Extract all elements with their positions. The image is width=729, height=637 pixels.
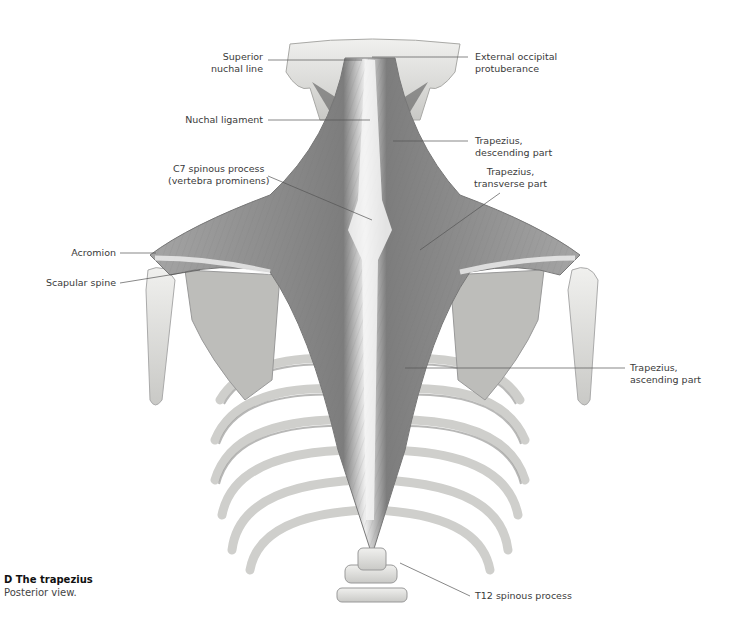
- label-trapezius-transverse-part: Trapezius, transverse part: [474, 166, 547, 190]
- humerus-left: [146, 268, 175, 405]
- label-scapular-spine: Scapular spine: [46, 277, 116, 289]
- caption-title: D The trapezius: [4, 573, 93, 586]
- label-superior-nuchal-line: Superior nuchal line: [211, 51, 263, 75]
- scapula-left: [185, 270, 280, 400]
- label-external-occipital-protuberance: External occipital protuberance: [475, 51, 557, 75]
- scapula-right: [450, 270, 544, 400]
- trapezius-illustration: [0, 0, 729, 637]
- figure-caption: D The trapezius Posterior view.: [4, 573, 93, 599]
- label-trapezius-ascending-part: Trapezius, ascending part: [630, 362, 701, 386]
- label-acromion: Acromion: [71, 247, 116, 259]
- lumbar-vertebrae: [337, 548, 407, 602]
- label-nuchal-ligament: Nuchal ligament: [185, 114, 263, 126]
- label-c7-spinous-process: C7 spinous process (vertebra prominens): [168, 163, 269, 187]
- humerus-right: [568, 268, 598, 405]
- leader-t12-spinous-process: [400, 563, 470, 596]
- label-t12-spinous-process: T12 spinous process: [475, 590, 572, 602]
- caption-subtitle: Posterior view.: [4, 586, 93, 599]
- label-trapezius-descending-part: Trapezius, descending part: [475, 135, 552, 159]
